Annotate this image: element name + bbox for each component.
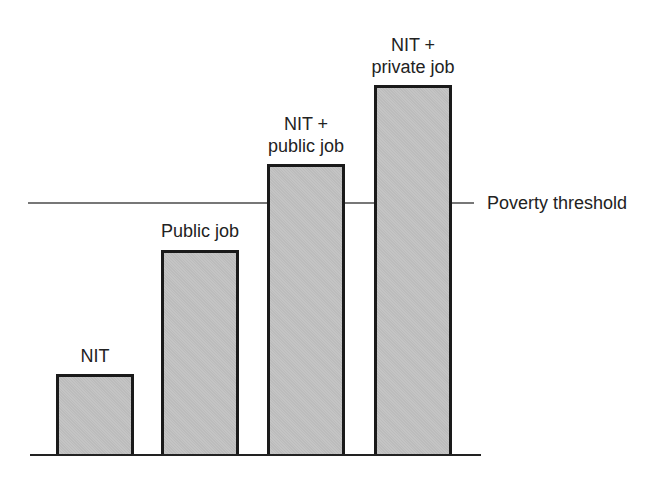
label-line: public job <box>268 135 344 157</box>
label-line: private job <box>371 56 454 78</box>
label-line: NIT + <box>371 34 454 56</box>
label-line: NIT <box>81 345 110 367</box>
bar-nit <box>56 374 134 455</box>
bar-label-nit-private-job: NIT + private job <box>371 34 454 78</box>
label-line: Public job <box>161 220 239 242</box>
bar-nit-public-job <box>267 164 345 455</box>
bar-public-job <box>161 250 239 455</box>
bar-label-nit: NIT <box>81 345 110 367</box>
x-axis-baseline <box>30 454 481 456</box>
bar-nit-private-job <box>374 85 452 455</box>
bar-label-public-job: Public job <box>161 220 239 242</box>
poverty-threshold-label: Poverty threshold <box>487 192 627 214</box>
bar-label-nit-public-job: NIT + public job <box>268 113 344 157</box>
label-line: NIT + <box>268 113 344 135</box>
